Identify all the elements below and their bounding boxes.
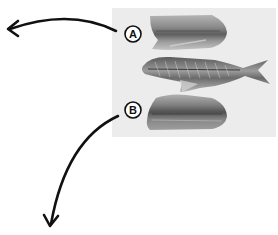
label-a-text: A	[129, 28, 137, 40]
fish-fillet-diagram: A B	[0, 0, 278, 235]
label-a: A	[125, 26, 141, 42]
arrow-down-icon	[44, 116, 118, 226]
upper-fillet	[150, 15, 227, 50]
label-b-text: B	[129, 104, 137, 116]
arrow-left-icon	[8, 19, 116, 36]
label-b: B	[125, 102, 141, 118]
lower-fillet	[147, 94, 227, 130]
